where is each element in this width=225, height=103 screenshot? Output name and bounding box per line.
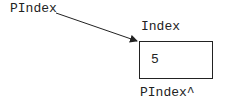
dereference-label: PIndex^	[140, 86, 195, 99]
variable-label: Index	[141, 20, 180, 33]
variable-box: 5	[139, 41, 213, 79]
variable-value: 5	[151, 53, 159, 66]
